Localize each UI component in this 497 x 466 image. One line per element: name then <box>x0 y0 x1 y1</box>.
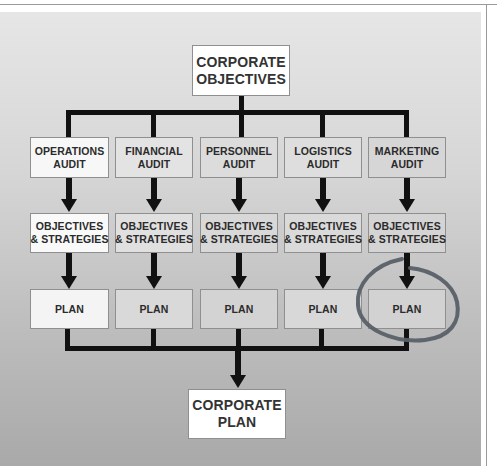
logistics-plan-box: PLAN <box>284 289 362 329</box>
arrow-down-icon <box>231 276 247 289</box>
arrow-down-icon <box>399 199 415 212</box>
arrow-down-icon <box>231 199 247 212</box>
arrow-down-icon <box>315 199 331 212</box>
corporate-objectives-line1: CORPORATE <box>196 54 285 71</box>
marketing-plan-box: PLAN <box>368 289 446 329</box>
logistics-audit-box: LOGISTICS AUDIT <box>284 137 362 178</box>
audit-label-line1: LOGISTICS <box>294 145 352 158</box>
connector-top-horizontal <box>66 110 409 115</box>
audit-label-line1: FINANCIAL <box>125 145 182 158</box>
corporate-plan-line1: CORPORATE <box>192 397 281 414</box>
plan-label: PLAN <box>309 303 338 316</box>
financial-objectives-box: OBJECTIVES & STRATEGIES <box>115 213 193 253</box>
audit-label-line1: PERSONNEL <box>206 145 272 158</box>
frame-top-border <box>0 4 497 5</box>
audit-label-line1: MARKETING <box>375 145 439 158</box>
audit-label-line1: OPERATIONS <box>35 145 105 158</box>
arrow-shaft <box>236 178 242 200</box>
corporate-objectives-box: CORPORATE OBJECTIVES <box>192 45 290 96</box>
personnel-audit-box: PERSONNEL AUDIT <box>200 137 278 178</box>
connector-to-operations <box>66 110 71 137</box>
objectives-label-line2: & STRATEGIES <box>284 233 362 246</box>
operations-plan-box: PLAN <box>30 289 109 329</box>
operations-audit-box: OPERATIONS AUDIT <box>30 137 109 178</box>
objectives-label-line2: & STRATEGIES <box>200 233 278 246</box>
plan-label: PLAN <box>55 303 84 316</box>
operations-objectives-box: OBJECTIVES & STRATEGIES <box>30 213 109 253</box>
objectives-label-line1: OBJECTIVES <box>36 220 104 233</box>
objectives-label-line1: OBJECTIVES <box>373 220 441 233</box>
objectives-label-line1: OBJECTIVES <box>289 220 357 233</box>
connector-to-marketing <box>404 110 409 137</box>
financial-audit-box: FINANCIAL AUDIT <box>115 137 193 178</box>
audit-label-line2: AUDIT <box>223 158 256 171</box>
arrow-shaft <box>151 178 157 200</box>
marketing-audit-box: MARKETING AUDIT <box>368 137 446 178</box>
marketing-objectives-box: OBJECTIVES & STRATEGIES <box>368 213 446 253</box>
personnel-objectives-box: OBJECTIVES & STRATEGIES <box>200 213 278 253</box>
objectives-label-line2: & STRATEGIES <box>368 233 446 246</box>
connector-bottom-vertical <box>235 346 241 376</box>
arrow-shaft <box>66 178 72 200</box>
corporate-plan-box: CORPORATE PLAN <box>188 389 286 439</box>
connector-to-logistics <box>320 110 325 137</box>
objectives-label-line1: OBJECTIVES <box>205 220 273 233</box>
arrow-down-icon <box>315 276 331 289</box>
audit-label-line2: AUDIT <box>307 158 340 171</box>
arrow-down-icon <box>146 199 162 212</box>
frame-right-border <box>486 4 487 466</box>
objectives-label-line2: & STRATEGIES <box>31 233 109 246</box>
plan-label: PLAN <box>140 303 169 316</box>
arrow-shaft <box>66 253 72 277</box>
corporate-objectives-line2: OBJECTIVES <box>196 71 286 88</box>
arrow-down-icon <box>61 199 77 212</box>
connector-to-personnel <box>239 110 244 137</box>
objectives-label-line2: & STRATEGIES <box>115 233 193 246</box>
audit-label-line2: AUDIT <box>138 158 171 171</box>
financial-plan-box: PLAN <box>115 289 193 329</box>
arrow-down-icon <box>399 276 415 289</box>
objectives-label-line1: OBJECTIVES <box>120 220 188 233</box>
arrow-down-icon <box>146 276 162 289</box>
arrow-shaft <box>320 178 326 200</box>
arrow-shaft <box>320 253 326 277</box>
arrow-shaft <box>404 178 410 200</box>
arrow-down-icon <box>230 375 246 388</box>
audit-label-line2: AUDIT <box>53 158 86 171</box>
personnel-plan-box: PLAN <box>200 289 278 329</box>
audit-label-line2: AUDIT <box>391 158 424 171</box>
arrow-shaft <box>404 253 410 277</box>
corporate-plan-line2: PLAN <box>218 414 257 431</box>
plan-label: PLAN <box>393 303 422 316</box>
arrow-shaft <box>151 253 157 277</box>
plan-label: PLAN <box>225 303 254 316</box>
connector-to-financial <box>151 110 156 137</box>
arrow-shaft <box>236 253 242 277</box>
arrow-down-icon <box>61 276 77 289</box>
logistics-objectives-box: OBJECTIVES & STRATEGIES <box>284 213 362 253</box>
